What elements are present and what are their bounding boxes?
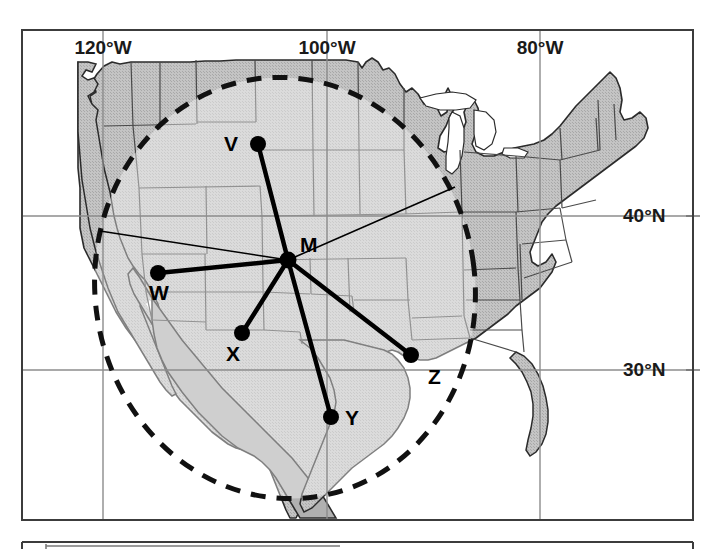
node-W[interactable]: [150, 265, 166, 281]
node-Y[interactable]: [323, 409, 339, 425]
map-figure: M V W X Y Z 40°N 30°N 120°W 100°W 80°W: [0, 0, 716, 549]
node-X[interactable]: [234, 325, 250, 341]
station-label-X: X: [226, 342, 240, 365]
node-M[interactable]: [280, 252, 297, 269]
node-V[interactable]: [250, 136, 266, 152]
station-label-Z: Z: [428, 365, 441, 388]
node-Z[interactable]: [403, 347, 419, 363]
figure-panel: M V W X Y Z 40°N 30°N 120°W 100°W 80°W: [0, 0, 716, 549]
lat-label-30: 30°N: [623, 359, 665, 380]
lon-label-80: 80°W: [517, 37, 564, 58]
lon-label-120: 120°W: [74, 37, 131, 58]
lat-label-40: 40°N: [623, 205, 665, 226]
station-label-W: W: [149, 281, 169, 304]
station-label-V: V: [224, 132, 238, 155]
station-label-Y: Y: [345, 406, 359, 429]
lon-label-100: 100°W: [298, 37, 355, 58]
station-label-M: M: [300, 233, 318, 256]
